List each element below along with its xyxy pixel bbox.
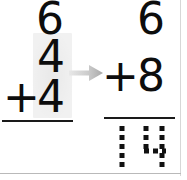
right-addition-problem: 6 + 8 <box>95 0 187 180</box>
worksheet-canvas: 6 4 + 4 6 + 8 <box>0 0 187 180</box>
right-answer-rule <box>104 117 175 119</box>
left-addition-problem: 6 4 + 4 <box>0 0 95 180</box>
left-addend-bottom: 4 <box>37 75 65 119</box>
left-plus-operator: + <box>3 75 40 119</box>
page-border-right <box>180 0 181 176</box>
left-answer-rule <box>2 120 73 122</box>
right-addend-top: 6 <box>137 0 165 41</box>
traced-answer-14 <box>113 124 175 170</box>
page-border-bottom <box>0 173 181 174</box>
right-plus-operator: + <box>102 54 139 98</box>
right-addend-bottom: 8 <box>137 54 165 98</box>
